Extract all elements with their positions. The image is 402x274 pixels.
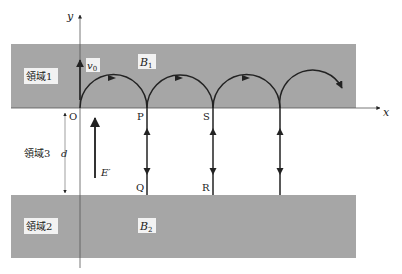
x-axis-label: x — [383, 106, 390, 119]
region2-field — [11, 195, 356, 258]
region2-label: 領域2 — [26, 220, 52, 232]
region3-label: 領域3 — [24, 147, 50, 159]
electric-field-label: E′ — [100, 167, 111, 178]
region1-field-ext — [11, 44, 356, 108]
region1-label: 領域1 — [26, 70, 52, 82]
point-label-s: S — [203, 111, 210, 122]
gap-d-label: d — [61, 148, 67, 159]
physics-diagram: x y O v0 B1 領域1 P S Q R E′ 領域3 d 領域2 B2 — [0, 0, 402, 274]
point-label-o: O — [69, 111, 77, 122]
point-label-q: Q — [136, 182, 144, 193]
point-label-p: P — [137, 111, 144, 122]
y-axis-label: y — [66, 10, 74, 23]
point-label-r: R — [202, 182, 210, 193]
